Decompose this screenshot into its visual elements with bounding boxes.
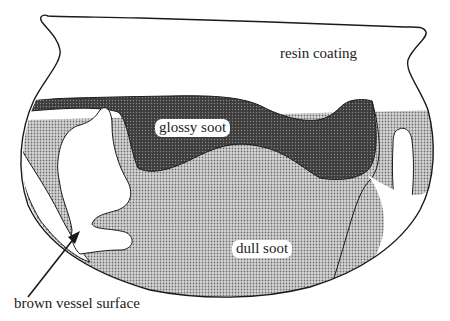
label-dull-soot: dull soot [232, 240, 292, 258]
label-brown-vessel-surface: brown vessel surface [14, 296, 140, 311]
label-glossy-soot: glossy soot [155, 119, 230, 137]
label-resin-coating: resin coating [280, 46, 357, 61]
vessel-diagram [0, 0, 450, 321]
